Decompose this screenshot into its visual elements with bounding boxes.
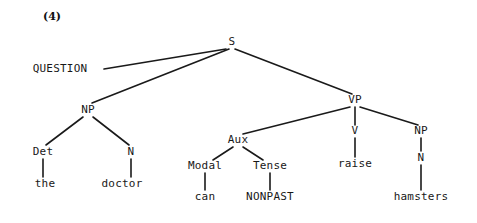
tree-node-vp: VP xyxy=(348,94,362,106)
tree-node-raise: raise xyxy=(338,158,372,170)
tree-node-s: S xyxy=(229,36,236,48)
tree-edge-s-to-vp xyxy=(235,49,352,94)
tree-edge-s-to-question xyxy=(104,49,226,69)
tree-node-aux: Aux xyxy=(228,134,248,146)
tree-edge-np1-to-n1 xyxy=(93,117,129,145)
tree-node-doctor: doctor xyxy=(102,178,143,190)
tree-node-hamsters: hamsters xyxy=(394,191,449,203)
tree-node-the: the xyxy=(35,178,55,190)
tree-node-v: V xyxy=(352,125,359,137)
tree-node-question: QUESTION xyxy=(33,63,88,75)
tree-edge-s-to-np1 xyxy=(92,49,229,103)
tree-node-np2: NP xyxy=(414,125,428,137)
tree-node-nonpast: NONPAST xyxy=(246,191,294,203)
tree-node-n2: N xyxy=(418,152,425,164)
tree-edge-vp-to-np2 xyxy=(360,107,418,125)
tree-node-det: Det xyxy=(33,146,53,158)
tree-node-can: can xyxy=(195,191,215,203)
tree-node-modal: Modal xyxy=(188,160,222,172)
tree-node-np1: NP xyxy=(81,104,95,116)
tree-edge-np1-to-det xyxy=(46,117,83,145)
tree-edge-vp-to-aux xyxy=(243,107,350,134)
tree-node-tense: Tense xyxy=(253,160,287,172)
syntax-tree-figure: (4) QUESTIONSNPDettheNdoctorVPAuxModalca… xyxy=(0,0,477,223)
tree-node-n1: N xyxy=(128,146,135,158)
